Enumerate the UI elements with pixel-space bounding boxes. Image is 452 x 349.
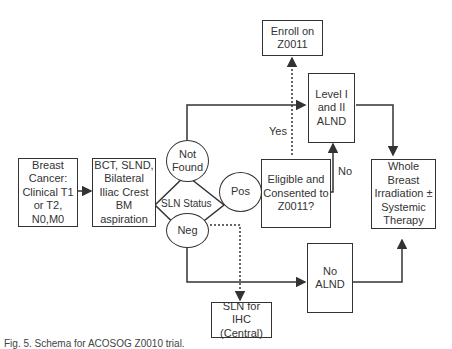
eligible-consented-label: Eligible and Consented to Z0011? <box>262 173 330 214</box>
sln-status-label: SLN Status <box>161 198 212 209</box>
neg-label: Neg <box>177 224 197 238</box>
sln-ihc-box: SLN for IHC (Central) <box>211 302 272 338</box>
no-edge-label: No <box>338 165 352 177</box>
bct-slnd-label: BCT, SLND, Bilateral Iliac Crest BM aspi… <box>93 159 155 227</box>
sln-ihc-label: SLN for IHC (Central) <box>212 300 271 341</box>
not-found-label: Not Found <box>167 148 208 175</box>
pos-node: Pos <box>219 172 262 212</box>
whole-breast-irradiation-label: Whole Breast Irradiation ± Systemic Ther… <box>372 160 435 228</box>
no-alnd-label: No ALND <box>308 265 352 292</box>
yes-edge-label: Yes <box>269 125 287 137</box>
bct-slnd-box: BCT, SLND, Bilateral Iliac Crest BM aspi… <box>92 158 156 227</box>
level-i-ii-alnd-label: Level I and II ALND <box>309 88 354 129</box>
eligible-consented-box: Eligible and Consented to Z0011? <box>261 159 331 228</box>
pos-label: Pos <box>231 185 250 199</box>
not-found-node: Not Found <box>166 140 209 182</box>
no-alnd-box: No ALND <box>307 243 353 313</box>
whole-breast-irradiation-box: Whole Breast Irradiation ± Systemic Ther… <box>371 159 436 229</box>
breast-cancer-label: Breast Cancer: Clinical T1 or T2, N0,M0 <box>19 159 77 227</box>
enroll-z0011-label: Enroll on Z0011 <box>263 25 322 52</box>
neg-node: Neg <box>166 213 209 248</box>
figure-caption: Fig. 5. Schema for ACOSOG Z0010 trial. <box>4 338 185 349</box>
breast-cancer-box: Breast Cancer: Clinical T1 or T2, N0,M0 <box>18 158 78 227</box>
level-i-ii-alnd-box: Level I and II ALND <box>308 73 355 143</box>
enroll-z0011-box: Enroll on Z0011 <box>262 20 323 56</box>
